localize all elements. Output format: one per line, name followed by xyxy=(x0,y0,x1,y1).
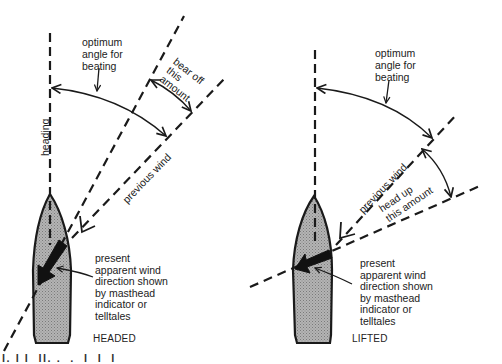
heading-label: heading xyxy=(39,119,51,156)
optimum-pointer-right xyxy=(386,80,389,103)
previous-wind-arrowhead-right xyxy=(340,222,355,238)
previous-wind-line-left xyxy=(72,77,226,238)
previous-wind-arrowhead-left xyxy=(80,216,95,232)
optimum-angle-label-left: optimum angle for beating xyxy=(82,36,123,72)
optimum-angle-arc-right xyxy=(317,88,432,138)
present-wind-label-left: present apparent wind direction shown by… xyxy=(95,253,168,322)
present-wind-label-right: present apparent wind direction shown by… xyxy=(360,258,433,327)
headed-caption: HEADED xyxy=(93,333,136,344)
lifted-caption: LIFTED xyxy=(352,333,388,344)
cropped-caption-fragment: l. l l ll. . . l l l xyxy=(2,352,116,364)
optimum-angle-label-right: optimum angle for beating xyxy=(375,47,416,83)
optimum-angle-arc-left xyxy=(52,88,166,136)
